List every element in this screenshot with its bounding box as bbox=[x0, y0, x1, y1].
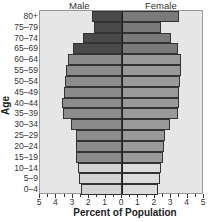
male-bar bbox=[76, 130, 122, 141]
x-tick-label: 0 bbox=[116, 197, 126, 207]
x-minor-tick bbox=[64, 194, 65, 197]
y-tick-label: 35–39 bbox=[0, 108, 38, 118]
male-bar bbox=[92, 11, 122, 22]
y-tick-label: 5–9 bbox=[0, 173, 38, 183]
female-bar bbox=[122, 130, 165, 141]
female-bar bbox=[122, 119, 170, 130]
pyramid-row bbox=[40, 152, 202, 163]
x-minor-tick bbox=[113, 194, 114, 197]
y-tick-label: 65–69 bbox=[0, 43, 38, 53]
pyramid-row bbox=[40, 43, 202, 54]
male-bar bbox=[81, 184, 122, 195]
female-bar bbox=[122, 173, 160, 184]
pyramid-row bbox=[40, 163, 202, 174]
y-tick-label: 55–59 bbox=[0, 65, 38, 75]
y-tick-label: 0–4 bbox=[0, 184, 38, 194]
female-bar bbox=[122, 184, 158, 195]
x-minor-tick bbox=[47, 194, 48, 197]
male-bar bbox=[64, 87, 122, 98]
pyramid-row bbox=[40, 54, 202, 65]
female-bar bbox=[122, 33, 171, 44]
y-tick-label: 70–74 bbox=[0, 33, 38, 43]
x-tick-label: 3 bbox=[67, 197, 77, 207]
male-bar bbox=[76, 152, 122, 163]
male-bar bbox=[76, 141, 122, 152]
female-bar bbox=[122, 43, 178, 54]
x-minor-tick bbox=[146, 194, 147, 197]
female-bar bbox=[122, 98, 179, 109]
male-bar bbox=[62, 98, 122, 109]
y-tick-label: 30–34 bbox=[0, 119, 38, 129]
female-bar bbox=[122, 141, 164, 152]
female-bar bbox=[122, 65, 181, 76]
male-bar bbox=[65, 76, 122, 87]
y-tick-label: 60–64 bbox=[0, 54, 38, 64]
pyramid-row bbox=[40, 130, 202, 141]
female-bar bbox=[122, 76, 180, 87]
x-tick-label: 2 bbox=[83, 197, 93, 207]
x-minor-tick bbox=[80, 194, 81, 197]
female-bar bbox=[122, 22, 161, 33]
pyramid-row bbox=[40, 173, 202, 184]
male-bar bbox=[83, 33, 122, 44]
pyramid-row bbox=[40, 22, 202, 33]
male-bar bbox=[94, 22, 122, 33]
pyramid-row bbox=[40, 87, 202, 98]
y-tick-label: 25–29 bbox=[0, 130, 38, 140]
y-tick-label: 45–49 bbox=[0, 87, 38, 97]
male-bar bbox=[63, 108, 122, 119]
pyramid-row bbox=[40, 119, 202, 130]
male-bar bbox=[68, 54, 122, 65]
y-tick-label: 20–24 bbox=[0, 141, 38, 151]
x-tick-label: 1 bbox=[100, 197, 110, 207]
pyramid-row bbox=[40, 108, 202, 119]
x-minor-tick bbox=[96, 194, 97, 197]
x-tick-label: 3 bbox=[165, 197, 175, 207]
x-tick-label: 2 bbox=[149, 197, 159, 207]
x-tick-label: 4 bbox=[50, 197, 60, 207]
x-minor-tick bbox=[178, 194, 179, 197]
y-tick-label: 10–14 bbox=[0, 163, 38, 173]
y-tick-label: 80+ bbox=[0, 11, 38, 21]
pyramid-row bbox=[40, 98, 202, 109]
center-axis-line bbox=[122, 11, 123, 193]
pyramid-row bbox=[40, 65, 202, 76]
x-tick-label: 1 bbox=[132, 197, 142, 207]
x-minor-tick bbox=[162, 194, 163, 197]
pyramid-row bbox=[40, 33, 202, 44]
y-tick-label: 50–54 bbox=[0, 76, 38, 86]
female-bar bbox=[122, 152, 163, 163]
x-tick-label: 5 bbox=[198, 197, 208, 207]
female-bar bbox=[122, 54, 181, 65]
x-minor-tick bbox=[195, 194, 196, 197]
x-axis-title: Percent of Population bbox=[70, 207, 180, 218]
y-tick-label: 40–44 bbox=[0, 98, 38, 108]
male-bar bbox=[66, 65, 122, 76]
x-tick-label: 4 bbox=[182, 197, 192, 207]
plot-area bbox=[39, 10, 203, 194]
pyramid-row bbox=[40, 76, 202, 87]
male-bar bbox=[73, 43, 122, 54]
male-bar bbox=[78, 163, 122, 174]
female-bar bbox=[122, 163, 161, 174]
female-bar bbox=[122, 11, 179, 22]
pyramid-row bbox=[40, 11, 202, 22]
y-tick-label: 15–19 bbox=[0, 152, 38, 162]
y-tick-label: 75–79 bbox=[0, 22, 38, 32]
x-tick-label: 5 bbox=[34, 197, 44, 207]
x-minor-tick bbox=[129, 194, 130, 197]
female-bar bbox=[122, 108, 178, 119]
male-bar bbox=[79, 173, 122, 184]
male-bar bbox=[71, 119, 122, 130]
female-bar bbox=[122, 87, 179, 98]
pyramid-row bbox=[40, 141, 202, 152]
